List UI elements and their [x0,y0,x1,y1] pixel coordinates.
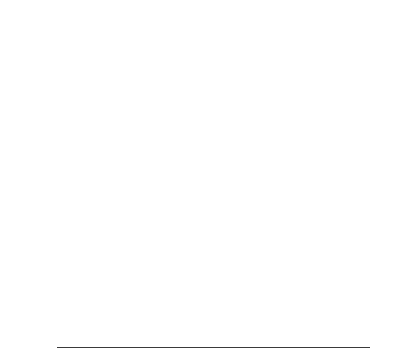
network-graph-figure [0,0,419,355]
frequency-legend [351,124,419,302]
subgraph-legend [351,62,419,66]
frequency-legend-items [351,127,419,302]
bottom-divider [57,347,370,348]
